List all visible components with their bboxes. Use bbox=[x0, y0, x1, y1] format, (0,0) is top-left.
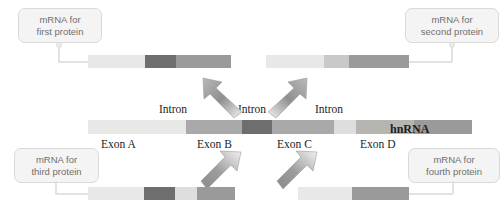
mrna-first-segment-exon-b bbox=[145, 55, 176, 68]
leader-line-third-horizontal bbox=[55, 193, 89, 195]
leader-line-fourth-horizontal bbox=[408, 193, 453, 195]
callout-second-protein: mRNA for second protein bbox=[405, 8, 499, 43]
mrna-first-segment-exon-d bbox=[176, 55, 231, 68]
callout-fourth-line1: mRNA for bbox=[416, 154, 492, 166]
hnrna-segment-intron-2 bbox=[272, 120, 334, 134]
leader-line-first-vertical bbox=[58, 46, 60, 62]
mrna-fourth-segment-exon-a bbox=[298, 187, 352, 200]
leader-line-second-vertical bbox=[451, 46, 453, 62]
mrna-bar-third bbox=[88, 187, 235, 200]
leader-line-second-horizontal bbox=[409, 61, 452, 63]
hnrna-segment-exon-a bbox=[88, 120, 186, 134]
exon-label-d: Exon D bbox=[360, 138, 395, 150]
callout-fourth-protein: mRNA for fourth protein bbox=[408, 148, 500, 183]
callout-first-protein: mRNA for first protein bbox=[18, 8, 102, 43]
callout-second-line1: mRNA for bbox=[413, 14, 491, 26]
hnrna-segment-exon-c bbox=[334, 120, 356, 134]
mrna-first-segment-exon-a bbox=[88, 55, 145, 68]
intron-label-1: Intron bbox=[159, 103, 187, 115]
hnrna-segment-intron-1 bbox=[186, 120, 242, 134]
callout-third-line2: third protein bbox=[22, 166, 91, 178]
mrna-third-segment-exon-b bbox=[144, 187, 175, 200]
mrna-second-segment-exon-a bbox=[266, 55, 324, 68]
callout-first-line1: mRNA for bbox=[26, 14, 94, 26]
mrna-second-segment-exon-d bbox=[349, 55, 409, 68]
mrna-bar-second bbox=[266, 55, 409, 68]
mrna-bar-first bbox=[88, 55, 231, 68]
leader-line-first-horizontal bbox=[58, 61, 89, 63]
mrna-third-segment-exon-a bbox=[88, 187, 144, 200]
splice-arrow-to-first bbox=[200, 72, 248, 120]
mrna-bar-fourth bbox=[298, 187, 409, 200]
callout-fourth-line2: fourth protein bbox=[416, 166, 492, 178]
callout-third-line1: mRNA for bbox=[22, 154, 91, 166]
splice-arrow-to-second bbox=[262, 72, 310, 120]
splicing-diagram: mRNA for first protein mRNA for second p… bbox=[0, 0, 504, 215]
callout-first-line2: first protein bbox=[26, 26, 94, 38]
callout-second-line2: second protein bbox=[413, 26, 491, 38]
intron-label-3: Intron bbox=[315, 103, 343, 115]
callout-third-protein: mRNA for third protein bbox=[14, 148, 99, 183]
hnrna-segment-exon-b bbox=[242, 120, 272, 134]
mrna-fourth-segment-exon-d bbox=[352, 187, 409, 200]
mrna-second-segment-exon-c bbox=[324, 55, 349, 68]
mrna-third-segment-exon-d bbox=[197, 187, 235, 200]
exon-label-a: Exon A bbox=[101, 138, 136, 150]
hnrna-label: hnRNA bbox=[390, 122, 429, 137]
mrna-third-segment-exon-c bbox=[175, 187, 197, 200]
